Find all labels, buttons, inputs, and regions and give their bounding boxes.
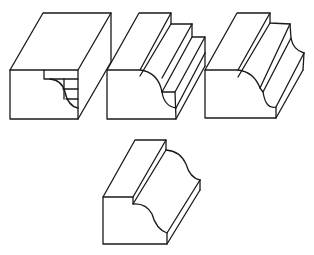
block-2 [107,13,205,119]
block-4 [103,140,200,244]
block-3 [205,13,304,118]
molding-figure: Four isometric line drawings of wood blo… [0,0,314,255]
block-1 [10,13,111,119]
